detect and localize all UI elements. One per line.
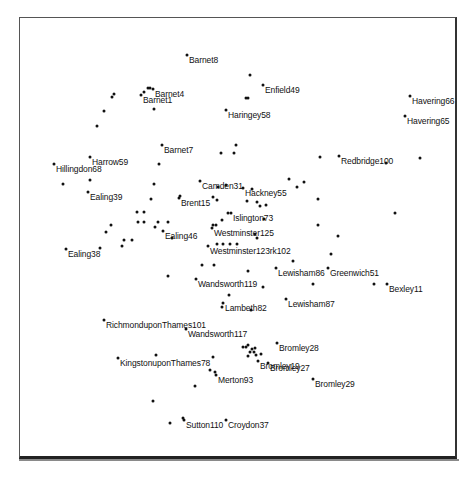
point-label: Ealing39: [90, 193, 122, 202]
point-label: Havering66: [412, 97, 454, 106]
data-point: [167, 221, 170, 224]
data-point: [247, 344, 250, 347]
data-point: [317, 198, 320, 201]
point-label: Havering65: [407, 117, 449, 126]
data-point: [228, 294, 231, 297]
data-point: [303, 181, 306, 184]
data-point: [249, 74, 252, 77]
data-point: [143, 211, 146, 214]
data-point: [105, 231, 108, 234]
point-label: Lewisham87: [288, 300, 335, 309]
data-point: [153, 108, 156, 111]
point-label: Ealing46: [165, 232, 197, 241]
data-point: [221, 219, 224, 222]
point-label: Islington73: [233, 214, 273, 223]
point-label: Greenwich51: [330, 269, 379, 278]
data-point: [233, 152, 236, 155]
data-point: [150, 198, 153, 201]
data-point: [123, 239, 126, 242]
data-point: [259, 205, 262, 208]
data-point: [158, 163, 161, 166]
data-point: [249, 351, 252, 354]
data-point: [247, 97, 250, 100]
data-point: [221, 306, 224, 309]
data-point: [167, 275, 170, 278]
scatter-points-layer: Barnet8Barnet4Barnet1Enfield49Havering66…: [0, 0, 474, 478]
data-point: [419, 157, 422, 160]
data-point: [312, 283, 315, 286]
data-point: [296, 186, 299, 189]
point-label: Bexley11: [389, 285, 423, 294]
data-point: [212, 356, 215, 359]
data-point: [247, 270, 250, 273]
point-label: Croydon37: [228, 421, 269, 430]
data-point: [143, 91, 146, 94]
data-point: [254, 347, 257, 350]
data-point: [220, 152, 223, 155]
data-point: [89, 179, 92, 182]
point-label: Bromley29: [315, 380, 355, 389]
point-label: Enfield49: [265, 86, 300, 95]
point-label: Wandsworth117: [188, 330, 247, 339]
data-point: [337, 235, 340, 238]
data-point: [103, 110, 106, 113]
data-point: [96, 125, 99, 128]
point-label: Lambeth82: [225, 304, 267, 313]
point-label: Merton93: [218, 376, 253, 385]
data-point: [155, 354, 158, 357]
point-label: Barnet7: [164, 146, 193, 155]
point-label: Ealing38: [68, 250, 100, 259]
data-point: [265, 204, 268, 207]
data-point: [319, 156, 322, 159]
data-point: [169, 422, 172, 425]
data-point: [212, 196, 215, 199]
data-point: [143, 221, 146, 224]
data-point: [288, 178, 291, 181]
data-point: [152, 400, 155, 403]
point-label: Sutton110: [186, 421, 223, 430]
data-point: [137, 221, 140, 224]
point-label: Redbridge100: [341, 157, 393, 166]
point-label: Camden31: [202, 182, 243, 191]
data-point: [62, 183, 65, 186]
data-point: [110, 224, 113, 227]
point-label: Lewisham86: [278, 269, 325, 278]
data-point: [262, 286, 265, 289]
data-point: [373, 283, 376, 286]
data-point: [209, 369, 212, 372]
point-label: Hackney55: [245, 189, 287, 198]
data-point: [246, 200, 249, 203]
data-point: [136, 211, 139, 214]
data-point: [213, 264, 216, 267]
point-label: Barnet8: [189, 56, 218, 65]
data-point: [157, 221, 160, 224]
data-point: [216, 199, 219, 202]
data-point: [256, 201, 259, 204]
data-point: [317, 224, 320, 227]
data-point: [121, 245, 124, 248]
data-point: [255, 354, 258, 357]
point-label: Westminster123rk102: [210, 247, 291, 256]
point-label: Wandsworth119: [198, 280, 257, 289]
data-point: [292, 260, 295, 263]
data-point: [111, 96, 114, 99]
data-point: [194, 385, 197, 388]
point-label: Bromley27: [270, 364, 310, 373]
data-point: [154, 226, 157, 229]
data-point: [131, 239, 134, 242]
data-point: [330, 253, 333, 256]
point-label: Haringey58: [228, 111, 270, 120]
point-label: Hillingdon68: [56, 165, 102, 174]
point-label: Westminster125: [214, 229, 274, 238]
data-point: [394, 212, 397, 215]
point-label: Brent15: [181, 199, 210, 208]
data-point: [260, 353, 263, 356]
data-point: [153, 183, 156, 186]
data-point: [247, 355, 250, 358]
data-point: [201, 264, 204, 267]
point-label: Barnet1: [143, 96, 172, 105]
point-label: Bromley28: [279, 344, 319, 353]
data-point: [235, 144, 238, 147]
point-label: KingstonuponThames78: [120, 359, 210, 368]
data-point: [215, 224, 218, 227]
